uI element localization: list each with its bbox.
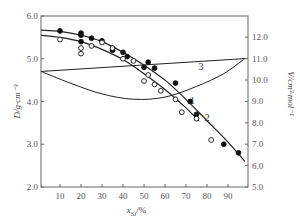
curve-2 bbox=[41, 35, 199, 121]
y-left-tick-label: 2.0 bbox=[27, 182, 39, 192]
curve-1 bbox=[41, 30, 245, 161]
open-circle-marker bbox=[100, 40, 105, 45]
curve-label-2: 2 bbox=[205, 112, 210, 123]
filled-circle-marker bbox=[221, 142, 226, 147]
filled-circle-marker bbox=[79, 39, 84, 44]
x-tick-label: 10 bbox=[56, 191, 66, 201]
open-circle-marker bbox=[131, 58, 136, 63]
y-right-tick-label: 11.0 bbox=[252, 54, 268, 64]
filled-circle-marker bbox=[173, 81, 178, 86]
x-axis-title: xSi/% bbox=[126, 205, 147, 218]
y-left-tick-label: 5.0 bbox=[27, 54, 39, 64]
open-circle-marker bbox=[179, 110, 184, 115]
open-circle-marker bbox=[146, 73, 151, 78]
y-left-tick-label: 3.0 bbox=[27, 139, 39, 149]
x-tick-label: 70 bbox=[182, 191, 192, 201]
open-circle-marker bbox=[110, 46, 115, 51]
data-markers bbox=[58, 29, 241, 156]
plot-frame bbox=[41, 16, 248, 187]
open-circle-marker bbox=[79, 46, 84, 51]
y-right-tick-label: 5.0 bbox=[252, 182, 264, 192]
x-tick-label: 80 bbox=[203, 191, 213, 201]
x-tick-label: 20 bbox=[77, 191, 87, 201]
x-tick-label: 60 bbox=[161, 191, 171, 201]
open-circle-marker bbox=[152, 82, 157, 87]
filled-circle-marker bbox=[89, 36, 94, 41]
x-tick-label: 90 bbox=[224, 191, 234, 201]
filled-circle-marker bbox=[152, 66, 157, 71]
open-circle-marker bbox=[173, 97, 178, 102]
y-left-tick-label: 6.0 bbox=[27, 11, 39, 21]
curves bbox=[41, 30, 245, 161]
open-circle-marker bbox=[58, 37, 63, 42]
x-tick-label: 40 bbox=[119, 191, 129, 201]
y-right-tick-label: 9.0 bbox=[252, 96, 264, 106]
filled-circle-marker bbox=[142, 65, 147, 70]
y-right-tick-label: 10.0 bbox=[252, 75, 268, 85]
open-circle-marker bbox=[142, 79, 147, 84]
y-right-axis-title: V/cm³·mol⁻¹ bbox=[286, 71, 296, 116]
x-tick-label: 30 bbox=[98, 191, 108, 201]
y-left-tick-label: 4.0 bbox=[27, 97, 39, 107]
chart-canvas: 1020304050607080902.03.04.05.06.05.06.07… bbox=[0, 0, 300, 224]
filled-circle-marker bbox=[58, 29, 63, 34]
axes: 1020304050607080902.03.04.05.06.05.06.07… bbox=[27, 11, 269, 201]
filled-circle-marker bbox=[236, 150, 241, 155]
curve-label-3: 3 bbox=[198, 61, 203, 72]
y-right-tick-label: 6.0 bbox=[252, 161, 264, 171]
open-circle-marker bbox=[158, 88, 163, 93]
filled-circle-marker bbox=[79, 33, 84, 38]
y-right-tick-label: 12.0 bbox=[252, 32, 268, 42]
filled-circle-marker bbox=[146, 60, 151, 65]
y-right-tick-label: 8.0 bbox=[252, 118, 264, 128]
chart: 1020304050607080902.03.04.05.06.05.06.07… bbox=[0, 0, 300, 224]
curve-label-1: 1 bbox=[190, 95, 195, 106]
open-circle-marker bbox=[79, 51, 84, 56]
open-circle-marker bbox=[121, 56, 126, 61]
open-circle-marker bbox=[209, 138, 214, 143]
filled-circle-marker bbox=[121, 50, 126, 55]
open-circle-marker bbox=[194, 116, 199, 121]
open-circle-marker bbox=[89, 44, 94, 49]
y-right-tick-label: 7.0 bbox=[252, 139, 264, 149]
y-left-axis-title: D/g·cm⁻³ bbox=[12, 84, 22, 119]
x-tick-label: 50 bbox=[140, 191, 150, 201]
